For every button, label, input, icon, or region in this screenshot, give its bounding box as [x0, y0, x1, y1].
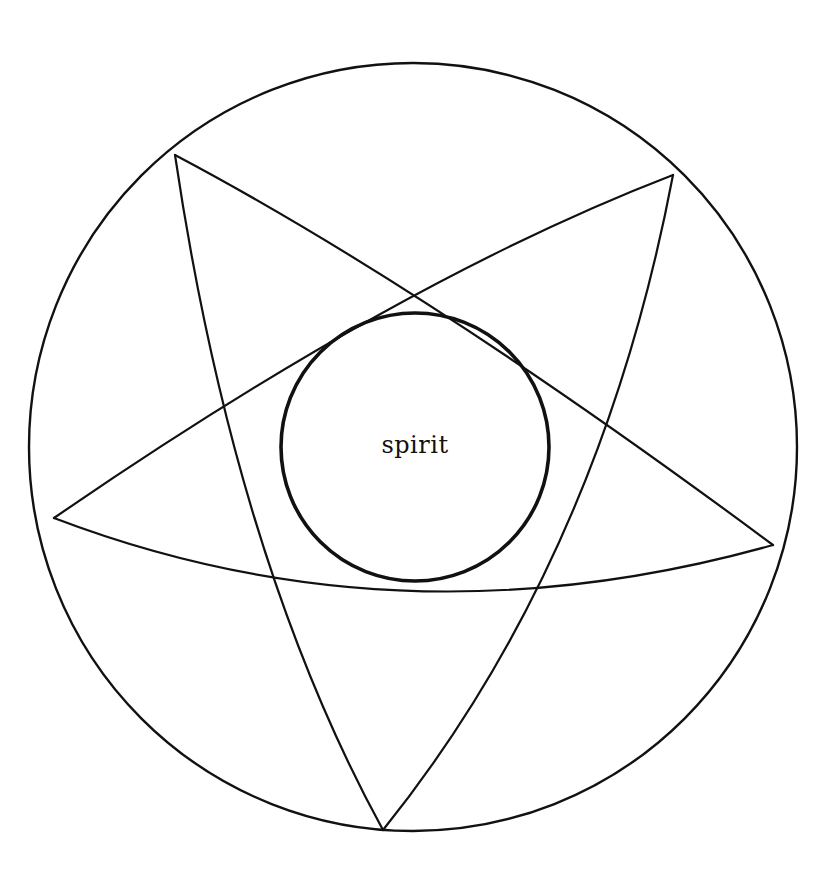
star-edge-topleft-right	[175, 155, 773, 545]
star-edge-topright-left	[54, 175, 673, 518]
pentagram-diagram: spirit	[0, 0, 830, 889]
star-edge-topright-bottom	[383, 175, 673, 830]
spirit-label: spirit	[315, 430, 515, 460]
